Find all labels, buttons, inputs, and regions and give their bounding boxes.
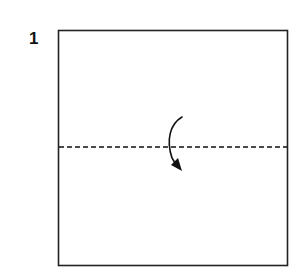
paper-square — [59, 31, 288, 266]
origami-diagram — [0, 0, 301, 269]
